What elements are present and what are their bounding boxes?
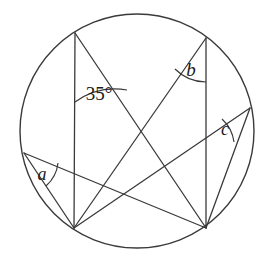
- angle-label-35: 35°: [86, 83, 113, 104]
- chord-L-BL: [24, 153, 74, 228]
- chord-L-BR: [24, 153, 206, 228]
- angle-label-a: a: [38, 164, 47, 184]
- angle-label-b: b: [186, 59, 196, 80]
- chord-TL-BL: [74, 33, 75, 228]
- geometry-canvas: 35° b c a: [0, 0, 270, 261]
- main-circle: [20, 14, 254, 248]
- geometry-diagram: 35° b c a: [0, 0, 270, 261]
- chords-group: [24, 33, 250, 228]
- angle-label-c: c: [221, 119, 229, 139]
